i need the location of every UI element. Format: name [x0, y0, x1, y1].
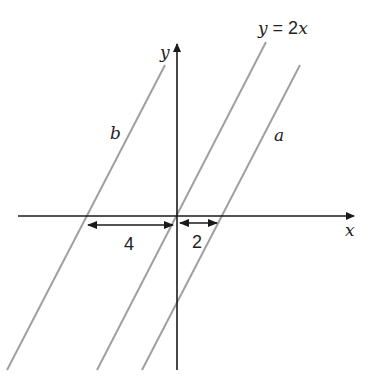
label-eq: = 2 [268, 18, 299, 38]
line-b [7, 65, 165, 370]
label-lhs: y [257, 18, 268, 38]
label-var: x [298, 18, 308, 38]
line-a [142, 65, 300, 370]
y-axis-label: y [159, 42, 170, 62]
line-y-equals-2x [97, 42, 266, 370]
distance-label-4: 4 [124, 234, 134, 254]
x-axis-label: x [345, 220, 355, 240]
line-y-equals-2x-label: y = 2x [257, 18, 308, 38]
distance-label-2: 2 [192, 232, 202, 252]
line-a-label: a [274, 125, 284, 145]
coordinate-diagram: y x y = 2x a b 4 2 [0, 0, 366, 384]
line-b-label: b [110, 123, 121, 143]
